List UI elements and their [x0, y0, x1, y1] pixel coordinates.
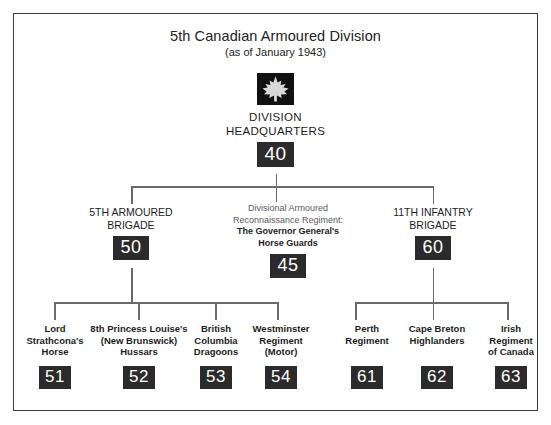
badge-wrap: 52 [80, 366, 198, 389]
node-label: 11TH INFANTRY BRIGADE [373, 206, 493, 232]
badge-wrap: 61 [334, 366, 400, 389]
unit-badge: 51 [39, 366, 71, 389]
unit-badge: 61 [351, 366, 383, 389]
connector-drop-bde11 [433, 186, 435, 204]
badge-wrap: 50 [71, 236, 191, 260]
node-label: Perth Regiment [334, 323, 400, 346]
unit-badge: 63 [495, 366, 527, 389]
node-cape-breton-highlanders: Cape Breton Highlanders 62 [392, 323, 482, 389]
node-label: British Columbia Dragoons [182, 323, 250, 358]
chart-title: 5th Canadian Armoured Division [0, 27, 551, 45]
node-label: Irish Regiment of Canada [478, 323, 544, 358]
chart-subtitle: (as of January 1943) [0, 45, 551, 60]
connector-bde11-stem [433, 268, 435, 303]
connector-drop-51 [54, 302, 56, 320]
node-label-name: The Governor General's Horse Guards [212, 226, 364, 249]
connector-drop-53 [215, 302, 217, 320]
unit-badge: 52 [123, 366, 155, 389]
badge-wrap: 53 [182, 366, 250, 389]
node-label: Westminster Regiment (Motor) [242, 323, 320, 358]
node-label: DIVISION HEADQUARTERS [190, 110, 361, 138]
badge-wrap: 62 [392, 366, 482, 389]
unit-badge: 40 [257, 142, 293, 167]
node-division-headquarters: DIVISION HEADQUARTERS 40 [190, 110, 361, 167]
connector-bde5-bus [54, 302, 278, 304]
connector-tier2-bus [131, 186, 434, 188]
badge-wrap: 54 [242, 366, 320, 389]
connector-drop-52 [138, 302, 140, 320]
connector-drop-bde5 [131, 186, 133, 204]
connector-drop-recce [276, 186, 278, 202]
unit-badge: 53 [200, 366, 232, 389]
badge-wrap: 60 [373, 236, 493, 260]
node-westminster-regiment-motor: Westminster Regiment (Motor) 54 [242, 323, 320, 389]
unit-badge: 60 [415, 236, 450, 260]
node-divisional-recce-regiment: Divisional Armoured Reconnaissance Regim… [212, 203, 364, 278]
node-5th-armoured-brigade: 5TH ARMOURED BRIGADE 50 [71, 206, 191, 260]
node-label: Cape Breton Highlanders [392, 323, 482, 346]
connector-bde5-stem [131, 268, 133, 303]
unit-badge: 50 [113, 236, 148, 260]
unit-badge: 54 [265, 366, 297, 389]
badge-wrap: 45 [212, 254, 364, 278]
connector-drop-54 [277, 302, 279, 320]
badge-wrap: 63 [478, 366, 544, 389]
connector-bde11-bus [355, 302, 508, 304]
node-perth-regiment: Perth Regiment 61 [334, 323, 400, 389]
node-11th-infantry-brigade: 11TH INFANTRY BRIGADE 60 [373, 206, 493, 260]
node-label: 5TH ARMOURED BRIGADE [71, 206, 191, 232]
node-label: 8th Princess Louise's (New Brunswick) Hu… [80, 323, 198, 358]
unit-badge: 62 [421, 366, 453, 389]
node-british-columbia-dragoons: British Columbia Dragoons 53 [182, 323, 250, 389]
node-8th-princess-louises-hussars: 8th Princess Louise's (New Brunswick) Hu… [80, 323, 198, 389]
connector-drop-61 [355, 302, 357, 320]
unit-badge: 45 [270, 254, 305, 278]
node-label-role: Divisional Armoured Reconnaissance Regim… [212, 203, 364, 226]
maple-leaf-insignia [257, 73, 294, 105]
connector-drop-63 [507, 302, 509, 320]
node-irish-regiment-of-canada: Irish Regiment of Canada 63 [478, 323, 544, 389]
org-chart-page: 5th Canadian Armoured Division (as of Ja… [0, 0, 551, 425]
connector-drop-62 [433, 302, 435, 320]
chart-title-block: 5th Canadian Armoured Division (as of Ja… [0, 27, 551, 60]
badge-wrap: 40 [190, 142, 361, 167]
